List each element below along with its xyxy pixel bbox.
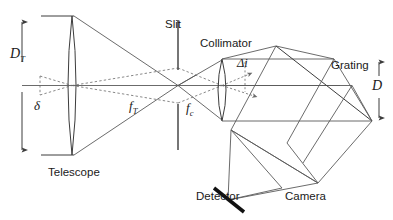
- collimator-input-cone: [178, 60, 222, 120]
- delta-angle-label: δ: [34, 99, 40, 112]
- telescope-label: Telescope: [48, 167, 100, 179]
- grating-label: Grating: [331, 60, 369, 72]
- collimator-focal-length-label: fc: [186, 101, 193, 117]
- camera-label: Camera: [285, 191, 326, 203]
- telescope-focal-length-label: fT: [129, 99, 137, 115]
- beam-diameter-label: D: [372, 79, 382, 93]
- optical-diagram-figure: Telescope Slit Collimator Grating Camera…: [0, 0, 393, 220]
- slit-label: Slit: [165, 19, 181, 31]
- optical-diagram-canvas: [0, 0, 393, 220]
- collimator-lens: [218, 59, 226, 121]
- collimator-label: Collimator: [200, 38, 252, 50]
- incidence-angle-change-label: Δi: [237, 57, 248, 70]
- detector-label: Detector: [196, 191, 239, 203]
- diffraction-grating: [276, 46, 372, 121]
- telescope-aperture-label: DT: [10, 47, 25, 63]
